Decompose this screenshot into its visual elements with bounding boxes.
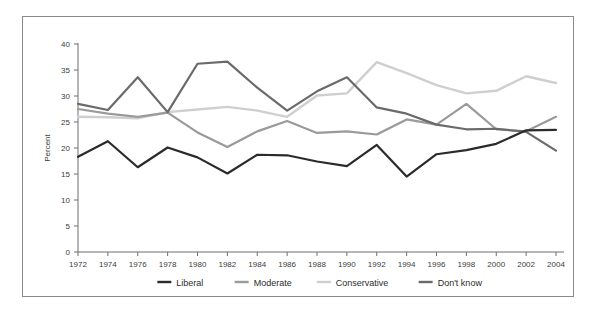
- series-line-don-t-know: [78, 62, 556, 151]
- x-tick-label: 1992: [368, 260, 386, 269]
- x-tick-label: 2000: [487, 260, 505, 269]
- x-tick-label: 1998: [457, 260, 475, 269]
- series-line-liberal: [78, 130, 556, 177]
- x-tick-label: 1972: [69, 260, 87, 269]
- x-tick-label: 1978: [159, 260, 177, 269]
- chart-legend: LiberalModerateConservativeDon't know: [157, 278, 482, 288]
- legend-label-moderate: Moderate: [254, 278, 292, 288]
- x-tick-label: 1986: [278, 260, 296, 269]
- legend-label-conservative: Conservative: [336, 278, 389, 288]
- x-tick-label: 1984: [248, 260, 266, 269]
- y-axis-title: Percent: [43, 133, 52, 161]
- chart-figure: 0510152025303540 19721974197619781980198…: [0, 0, 598, 315]
- x-tick-label: 2004: [547, 260, 565, 269]
- y-tick-label: 5: [66, 222, 71, 231]
- x-tick-label: 1980: [189, 260, 207, 269]
- y-tick-label: 20: [61, 144, 70, 153]
- y-tick-label: 40: [61, 40, 70, 49]
- series-group: [78, 62, 556, 177]
- legend-label-don-t-know: Don't know: [438, 278, 483, 288]
- y-axis-ticks: 0510152025303540: [61, 40, 78, 257]
- x-tick-label: 2002: [517, 260, 535, 269]
- x-tick-label: 1988: [308, 260, 326, 269]
- y-tick-label: 15: [61, 170, 70, 179]
- x-tick-label: 1994: [398, 260, 416, 269]
- x-tick-label: 1982: [218, 260, 236, 269]
- series-line-moderate: [78, 104, 556, 147]
- x-tick-label: 1976: [129, 260, 147, 269]
- y-tick-label: 35: [61, 66, 70, 75]
- y-tick-label: 10: [61, 196, 70, 205]
- y-tick-label: 0: [66, 248, 71, 257]
- x-axis-ticks: 1972197419761978198019821984198619881990…: [69, 252, 565, 269]
- x-tick-label: 1974: [99, 260, 117, 269]
- y-tick-label: 25: [61, 118, 70, 127]
- y-tick-label: 30: [61, 92, 70, 101]
- x-tick-label: 1996: [428, 260, 446, 269]
- x-tick-label: 1990: [338, 260, 356, 269]
- legend-label-liberal: Liberal: [176, 278, 203, 288]
- line-chart: 0510152025303540 19721974197619781980198…: [0, 0, 598, 315]
